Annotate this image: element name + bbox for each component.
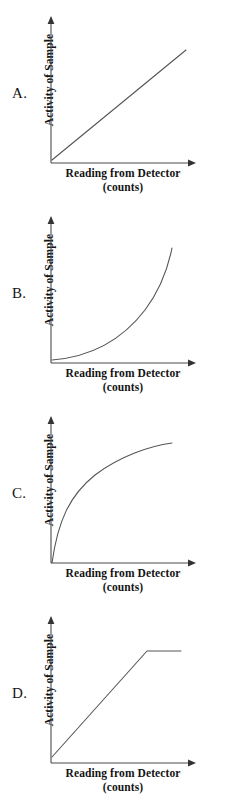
panel-a-x-axis-label-line1: Reading from Detector xyxy=(66,167,181,179)
panel-d-x-axis-label-line1: Reading from Detector xyxy=(66,767,181,779)
panel-b-x-axis-label-line2: (counts) xyxy=(30,380,216,394)
panel-d-curve xyxy=(52,651,181,757)
panel-d: D. Activity of Sample Reading from Detec… xyxy=(0,600,246,795)
panel-c-x-axis-label-line1: Reading from Detector xyxy=(66,567,181,579)
panel-a-x-axis-label: Reading from Detector (counts) xyxy=(30,166,216,194)
panel-d-y-axis-arrow xyxy=(48,616,55,624)
panel-b-y-axis-arrow xyxy=(48,216,55,224)
panel-b: B. Activity of Sample Reading from Detec… xyxy=(0,200,246,400)
panel-d-x-axis-label-line2: (counts) xyxy=(30,780,216,794)
panel-a: A. Activity of Sample Reading from Detec… xyxy=(0,0,246,200)
panel-c-x-axis-label: Reading from Detector (counts) xyxy=(30,566,216,594)
figure-panels: A. Activity of Sample Reading from Detec… xyxy=(0,0,246,795)
panel-c-y-axis-arrow xyxy=(48,416,55,424)
panel-a-x-axis-label-line2: (counts) xyxy=(30,180,216,194)
panel-b-x-axis-label: Reading from Detector (counts) xyxy=(30,366,216,394)
panel-b-curve xyxy=(52,248,172,360)
panel-c-curve xyxy=(52,443,172,563)
panel-c-x-axis-label-line2: (counts) xyxy=(30,580,216,594)
panel-a-curve xyxy=(52,50,186,160)
panel-a-y-axis-arrow xyxy=(48,16,55,24)
panel-d-x-axis-label: Reading from Detector (counts) xyxy=(30,766,216,794)
panel-b-x-axis-label-line1: Reading from Detector xyxy=(66,367,181,379)
panel-c: C. Activity of Sample Reading from Detec… xyxy=(0,400,246,600)
